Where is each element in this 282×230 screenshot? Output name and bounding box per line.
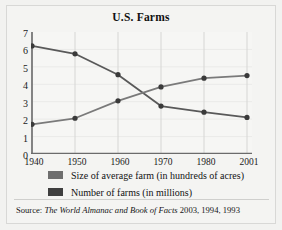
plot-area [31, 32, 252, 154]
x-axis-tick-1970: 1970 [143, 157, 183, 167]
legend-item-number-of-farms: Number of farms (in millions) [48, 185, 268, 199]
chart-title: U.S. Farms [0, 11, 282, 23]
legend-swatch-number-of-farms [48, 188, 63, 196]
source-title: The World Almanac and Book of Facts [44, 205, 177, 215]
legend-label-size-of-average-farm: Size of average farm (in hundreds of acr… [71, 170, 244, 181]
legend-label-number-of-farms: Number of farms (in millions) [71, 187, 192, 198]
y-axis-tick-6: 6 [6, 46, 28, 56]
source-divider [14, 199, 269, 200]
x-axis-tick-2001: 2001 [229, 157, 269, 167]
y-axis-tick-5: 5 [6, 64, 28, 74]
chart-legend: Size of average farm (in hundreds of acr… [48, 168, 268, 202]
source-years: 2003, 1994, 1993 [180, 205, 240, 215]
x-axis-tick-1980: 1980 [186, 157, 226, 167]
y-axis-tick-7: 7 [6, 29, 28, 39]
x-axis-tick-1950: 1950 [57, 157, 97, 167]
x-axis-tick-1940: 1940 [14, 157, 54, 167]
y-axis-tick-1: 1 [6, 134, 28, 144]
y-axis-tick-2: 2 [6, 116, 28, 126]
line-chart-svg [31, 32, 252, 154]
y-axis-tick-4: 4 [6, 81, 28, 91]
source-note: Source: The World Almanac and Book of Fa… [16, 205, 240, 215]
y-axis-tick-3: 3 [6, 99, 28, 109]
x-axis-tick-1960: 1960 [100, 157, 140, 167]
legend-swatch-size-of-average-farm [48, 171, 63, 179]
source-label: Source: [16, 205, 42, 215]
chart-figure: U.S. Farms 7 6 5 4 3 2 1 0 1940 1950 196… [0, 0, 282, 230]
legend-item-size-of-average-farm: Size of average farm (in hundreds of acr… [48, 168, 268, 182]
